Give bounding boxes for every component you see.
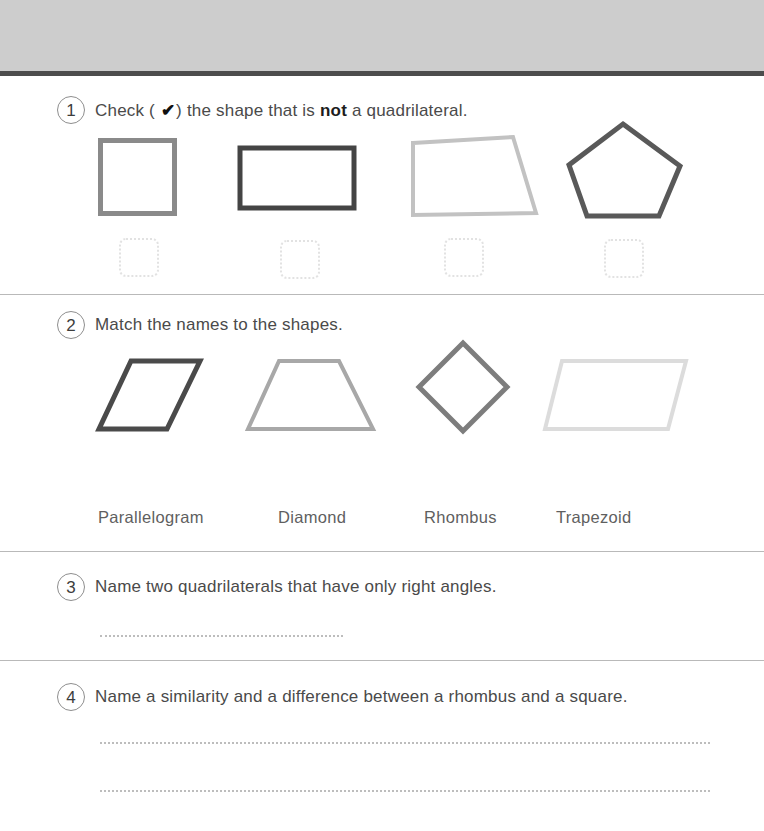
question-1-prompt-part-3: a quadrilateral. (347, 101, 468, 120)
shape-square-svg (96, 136, 184, 218)
shape-parallelogram-light (540, 355, 692, 437)
shape-name-diamond[interactable]: Diamond (278, 508, 346, 527)
header-rule (0, 71, 764, 76)
answer-line-question-4-a[interactable] (100, 742, 710, 744)
checkbox-rectangle[interactable] (280, 240, 320, 279)
shape-trapezoid-q2-svg (243, 355, 379, 437)
shape-rectangle (236, 144, 366, 218)
question-1-prompt-part-2: ) the shape that is (176, 101, 320, 120)
question-2-prompt: Match the names to the shapes. (95, 315, 343, 335)
question-2-number: 2 (57, 311, 85, 339)
divider-after-question-2 (0, 551, 764, 552)
question-4-prompt: Name a similarity and a difference betwe… (95, 687, 628, 707)
shape-diamond-svg (413, 337, 513, 437)
shape-parallelogram-light-svg (540, 355, 692, 437)
shape-parallelogram-dark (95, 355, 207, 437)
question-3-row: 3 Name two quadrilaterals that have only… (57, 573, 497, 601)
shape-pentagon (563, 117, 689, 223)
question-1-prompt: Check ( ✔) the shape that is not a quadr… (95, 100, 468, 121)
check-mark-icon: ✔ (160, 101, 176, 120)
divider-after-question-1 (0, 294, 764, 295)
shape-trapezoid-q2 (243, 355, 379, 437)
question-1-row: 1 Check ( ✔) the shape that is not a qua… (57, 96, 468, 124)
question-1-prompt-part-1: Check ( (95, 101, 160, 120)
header-band (0, 0, 764, 71)
question-1-emphasis: not (320, 101, 347, 120)
shape-name-parallelogram[interactable]: Parallelogram (98, 508, 204, 527)
answer-line-question-4-b[interactable] (100, 790, 710, 792)
question-4-number: 4 (57, 683, 85, 711)
checkbox-pentagon[interactable] (604, 239, 644, 278)
shape-rectangle-svg (236, 144, 366, 218)
checkbox-square[interactable] (119, 238, 159, 277)
shape-trapezoid-q1 (406, 133, 546, 223)
shape-trapezoid-q1-svg (406, 133, 546, 223)
shape-pentagon-svg (563, 117, 689, 223)
question-4-row: 4 Name a similarity and a difference bet… (57, 683, 628, 711)
shape-name-rhombus[interactable]: Rhombus (424, 508, 497, 527)
shape-diamond (413, 337, 513, 437)
question-3-prompt: Name two quadrilaterals that have only r… (95, 577, 497, 597)
question-2-row: 2 Match the names to the shapes. (57, 311, 343, 339)
shape-parallelogram-dark-svg (95, 355, 207, 437)
shape-name-trapezoid[interactable]: Trapezoid (556, 508, 631, 527)
divider-after-question-3 (0, 660, 764, 661)
shape-square (96, 136, 184, 218)
checkbox-trapezoid[interactable] (444, 238, 484, 277)
answer-line-question-3[interactable] (100, 635, 343, 637)
question-3-number: 3 (57, 573, 85, 601)
question-1-number: 1 (57, 96, 85, 124)
